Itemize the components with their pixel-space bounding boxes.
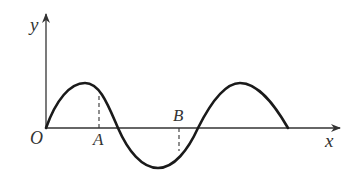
wave-curve [46,83,288,168]
y-axis-label: y [28,14,39,35]
wave-diagram: y x O A B [0,0,357,188]
point-a-label: A [92,130,104,149]
x-axis-label: x [324,130,334,151]
origin-label: O [30,128,43,148]
point-b-label: B [173,106,184,125]
